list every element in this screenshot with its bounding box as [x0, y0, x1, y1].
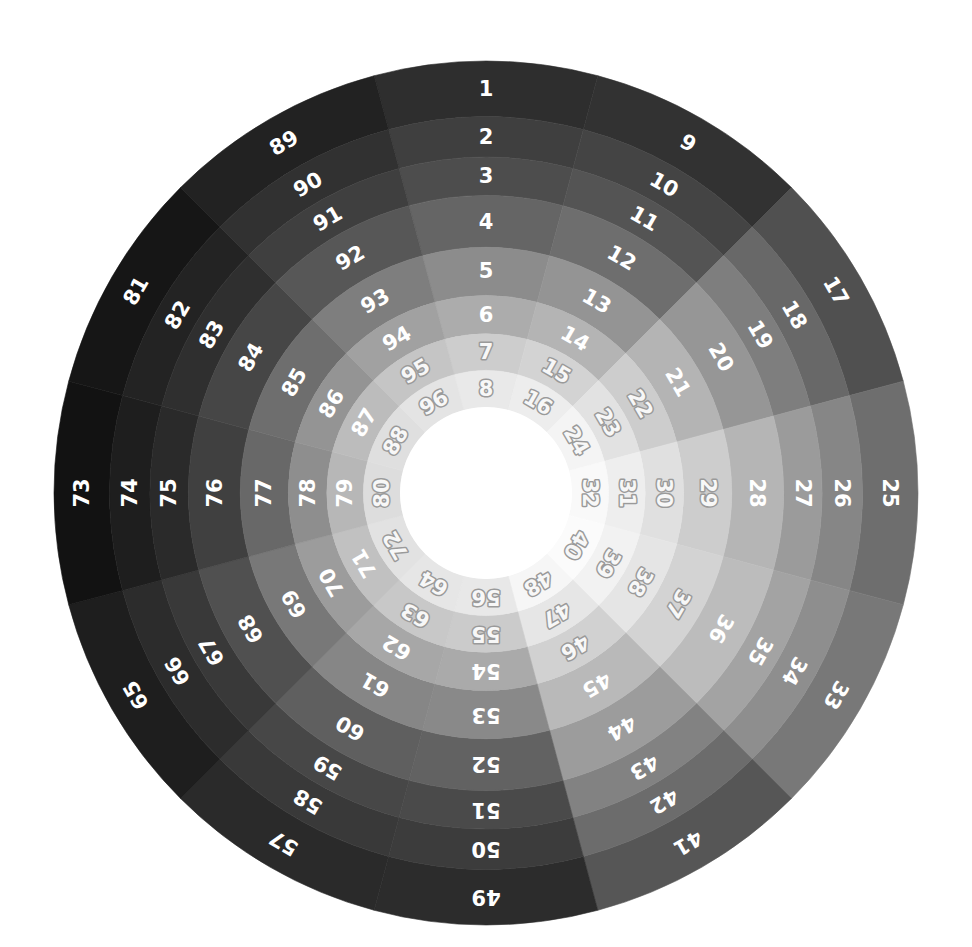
wheel-svg: 1234567891011121314151617181920212223242… [0, 0, 972, 947]
wheel-cell [422, 247, 549, 302]
wheel-cell [723, 416, 783, 570]
wheel-cell [240, 429, 295, 556]
wheel-cell [409, 730, 563, 790]
wheel-cell [445, 334, 527, 375]
wheel-cell [454, 370, 517, 409]
wheel-cell [363, 461, 402, 524]
radial-grayscale-chart: 1234567891011121314151617181920212223242… [0, 0, 972, 947]
wheel-cell [422, 684, 549, 739]
wheel-cell [604, 452, 645, 534]
wheel-cell [677, 429, 732, 556]
wheel-cell [409, 196, 563, 256]
wheel-cell [445, 611, 527, 652]
wheel-cell [189, 416, 249, 570]
wheel-cell [454, 576, 517, 615]
wheel-cell [289, 442, 333, 544]
wheel-cell [569, 461, 608, 524]
wheel-cell [327, 452, 368, 534]
wheel-cell [640, 442, 684, 544]
inner-hole [400, 407, 572, 579]
wheel-cell [435, 647, 537, 691]
wheel-cell [435, 296, 537, 340]
